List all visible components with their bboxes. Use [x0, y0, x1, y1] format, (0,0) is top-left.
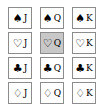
card-rank: K: [86, 14, 93, 23]
card-diamond-jack[interactable]: ♢J: [8, 82, 32, 104]
card-heart-queen[interactable]: ♡Q: [40, 32, 64, 54]
card-heart-jack[interactable]: ♡J: [8, 32, 32, 54]
card-club-jack[interactable]: ♣J: [8, 57, 32, 79]
spade-icon: ♠: [43, 13, 53, 24]
heart-icon: ♡: [75, 38, 85, 49]
card-grid: ♠J ♠Q ♠K ♡J ♡Q ♡K ♣J ♣Q ♣K ♢J ♢Q ♢K: [8, 7, 96, 104]
card-rank: Q: [54, 14, 61, 23]
club-icon: ♣: [13, 63, 23, 74]
card-heart-king[interactable]: ♡K: [72, 32, 96, 54]
card-rank: Q: [54, 89, 61, 98]
card-rank: Q: [54, 39, 61, 48]
club-icon: ♣: [43, 63, 53, 74]
card-spade-queen[interactable]: ♠Q: [40, 7, 64, 29]
card-rank: J: [24, 39, 28, 48]
card-spade-king[interactable]: ♠K: [72, 7, 96, 29]
card-rank: Q: [54, 64, 61, 73]
card-diamond-queen[interactable]: ♢Q: [40, 82, 64, 104]
spade-icon: ♠: [13, 13, 23, 24]
card-rank: K: [86, 89, 93, 98]
card-rank: J: [24, 64, 28, 73]
diamond-icon: ♢: [13, 88, 23, 99]
card-rank: J: [24, 89, 28, 98]
club-icon: ♣: [75, 63, 85, 74]
heart-icon: ♡: [43, 38, 53, 49]
card-rank: K: [86, 39, 93, 48]
heart-icon: ♡: [13, 38, 23, 49]
card-diamond-king[interactable]: ♢K: [72, 82, 96, 104]
card-club-king[interactable]: ♣K: [72, 57, 96, 79]
diamond-icon: ♢: [75, 88, 85, 99]
card-rank: J: [24, 14, 28, 23]
card-club-queen[interactable]: ♣Q: [40, 57, 64, 79]
diamond-icon: ♢: [43, 88, 53, 99]
card-rank: K: [86, 64, 93, 73]
card-spade-jack[interactable]: ♠J: [8, 7, 32, 29]
spade-icon: ♠: [75, 13, 85, 24]
